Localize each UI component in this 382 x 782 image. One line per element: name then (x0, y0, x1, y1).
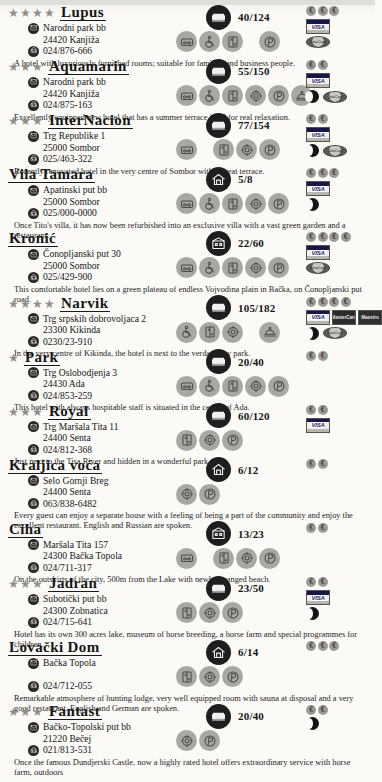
hotel-name[interactable]: Fantast (48, 703, 102, 720)
hotel-phone: 021/813-531 (43, 744, 92, 756)
wheelchair-icon[interactable] (199, 85, 220, 106)
wheelchair-icon[interactable] (176, 322, 197, 343)
wheelchair-icon[interactable] (199, 376, 220, 397)
price-coin: € (306, 705, 316, 715)
restaurant-icon[interactable] (176, 484, 197, 505)
restaurant-icon[interactable] (199, 666, 220, 687)
rating-star: ★ (8, 7, 19, 19)
hotel-city: 24400 Senta (43, 486, 91, 498)
parking-icon[interactable] (199, 484, 220, 505)
hotel-name[interactable]: InterNacion (48, 112, 133, 129)
wheelchair-icon[interactable] (199, 257, 220, 278)
restaurant-icon[interactable] (245, 85, 266, 106)
parking-icon[interactable] (259, 31, 280, 52)
hotel-name[interactable]: Aquamarin (48, 58, 129, 75)
hotel-name[interactable]: Vila Tamara (8, 166, 95, 183)
lift-icon[interactable] (222, 31, 243, 52)
hotel-name[interactable]: Narvik (60, 295, 110, 312)
parking-icon[interactable] (222, 602, 243, 623)
parking-icon[interactable] (268, 193, 289, 214)
bed-icon (206, 403, 231, 428)
rating-star: ★ (20, 706, 31, 718)
hotel-city: 25000 Sombor (43, 260, 100, 272)
parking-icon[interactable] (259, 139, 280, 160)
hotel-name[interactable]: Jadran (48, 575, 99, 592)
phone-icon (28, 336, 39, 347)
dinacard-logo: DinaCard (323, 327, 347, 339)
hotel-capacity: 55/150 (238, 65, 270, 77)
hotel-name[interactable]: Kraljica voća (8, 457, 102, 474)
parking-icon[interactable] (222, 666, 243, 687)
hotel-phone: 024/711-317 (43, 562, 92, 574)
hotel-facilities: 55/150 (176, 58, 301, 106)
restaurant-icon[interactable] (176, 730, 197, 751)
bed-icon (206, 113, 231, 138)
hotel-amenity-row (176, 322, 301, 343)
tv-icon[interactable] (176, 548, 197, 569)
hotel-name[interactable]: Royal (48, 403, 91, 420)
lift-icon[interactable] (222, 193, 243, 214)
parking-icon[interactable] (259, 548, 280, 569)
hotel-amenity-row (176, 193, 301, 214)
restaurant-icon[interactable] (199, 430, 220, 451)
price-range: €€€ (306, 6, 382, 16)
restaurant-icon[interactable] (222, 322, 243, 343)
hotel-entry[interactable]: ★★★FantastBačko-Topolski put bb21220 Beč… (6, 703, 369, 778)
rating-star: ★ (8, 352, 19, 364)
lift-icon[interactable] (213, 548, 234, 569)
rating-star: ★ (20, 406, 31, 418)
restaurant-icon[interactable] (245, 193, 266, 214)
hotel-name[interactable]: Kronić (8, 230, 58, 247)
restaurant-icon[interactable] (245, 376, 266, 397)
parking-icon[interactable] (268, 376, 289, 397)
tv-icon[interactable] (176, 376, 197, 397)
wheelchair-icon[interactable] (199, 193, 220, 214)
tv-icon[interactable] (176, 193, 197, 214)
hotel-capacity: 6/14 (238, 646, 258, 658)
extra-logos: DinaCard (306, 327, 382, 340)
parking-icon[interactable] (199, 730, 220, 751)
visa-card-logo: VISA (306, 310, 330, 325)
lift-icon[interactable] (176, 666, 197, 687)
restaurant-icon[interactable] (236, 139, 257, 160)
lift-icon[interactable] (222, 376, 243, 397)
hotel-capacity-row: 23/50 (176, 575, 301, 601)
hotel-name[interactable]: Park (24, 349, 60, 366)
lift-icon[interactable] (213, 139, 234, 160)
price-coin: € (329, 168, 339, 178)
restaurant-icon[interactable] (236, 548, 257, 569)
dinacard-logo: DinaCard (306, 36, 330, 48)
accepted-cards: VISA (306, 73, 382, 88)
hotel-facilities: 22/60 (176, 230, 301, 278)
lift-icon[interactable] (222, 85, 243, 106)
hotel-name[interactable]: Ciha (8, 521, 43, 538)
hotel-name[interactable]: Lovački Dom (8, 639, 102, 656)
rating-star: ★ (32, 298, 43, 310)
parking-icon[interactable] (222, 430, 243, 451)
tv-icon[interactable] (176, 85, 197, 106)
wheelchair-icon[interactable] (199, 31, 220, 52)
star-rating: ★ (8, 352, 19, 364)
hotel-phone: 024/876-666 (43, 45, 92, 57)
price-coin: € (329, 6, 339, 16)
parking-icon[interactable] (268, 257, 289, 278)
parking-icon[interactable] (268, 85, 289, 106)
restaurant-icon[interactable] (245, 257, 266, 278)
tv-icon[interactable] (176, 139, 197, 160)
roomservice-icon[interactable] (259, 322, 280, 343)
price-range: €€ (306, 405, 382, 415)
lift-icon[interactable] (176, 602, 197, 623)
lift-icon[interactable] (176, 430, 197, 451)
restaurant-icon[interactable] (199, 602, 220, 623)
hotel-city: 25000 Sombor (43, 196, 100, 208)
accepted-cards: VISA (306, 127, 382, 142)
tv-icon[interactable] (176, 257, 197, 278)
price-range: €€€ (306, 641, 382, 651)
extra-logos: DinaCard (306, 262, 382, 274)
lift-icon[interactable] (222, 257, 243, 278)
hotel-name[interactable]: Lupus (60, 4, 106, 21)
lift-icon[interactable] (199, 322, 220, 343)
envelope-icon (28, 185, 39, 196)
hotel-facilities: 13/23 (176, 521, 301, 569)
tv-icon[interactable] (176, 31, 197, 52)
